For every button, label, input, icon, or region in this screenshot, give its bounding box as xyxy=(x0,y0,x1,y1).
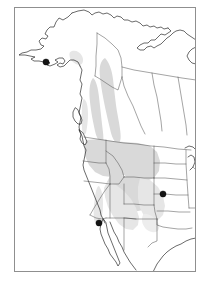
locality-alaska-peninsula xyxy=(43,59,49,65)
map-frame-group xyxy=(15,8,196,272)
distribution-map-figure xyxy=(0,0,204,282)
map-frame-border xyxy=(15,8,196,272)
locality-southern-california xyxy=(96,220,102,226)
locality-central-plains-kansas xyxy=(160,191,166,197)
map-canvas xyxy=(0,0,204,282)
